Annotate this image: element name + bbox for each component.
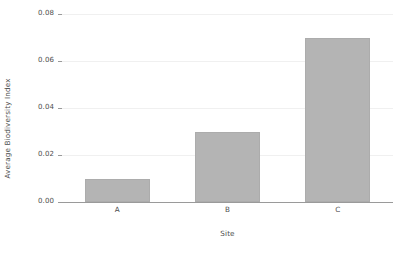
plot-area (62, 14, 393, 202)
x-axis-tick-label: B (172, 206, 282, 213)
bar (305, 38, 370, 203)
y-axis-tick-label: 0.08 (28, 10, 54, 17)
bar (195, 132, 260, 203)
y-axis-tick-label: 0.00 (28, 198, 54, 205)
y-axis-tick-group: 0.000.020.040.060.08 (0, 0, 62, 257)
y-axis-tick-label: 0.02 (28, 151, 54, 158)
gridline (62, 14, 393, 15)
x-axis-tick-label: A (62, 206, 172, 213)
y-axis-tick-label: 0.06 (28, 57, 54, 64)
y-axis-tick-label: 0.04 (28, 104, 54, 111)
x-axis-title: Site (62, 229, 393, 238)
x-axis-tick-label: C (283, 206, 393, 213)
bar-chart-figure: Average Biodiversity Index 0.000.020.040… (0, 0, 402, 257)
x-axis-line (62, 202, 393, 203)
bar (85, 179, 150, 203)
